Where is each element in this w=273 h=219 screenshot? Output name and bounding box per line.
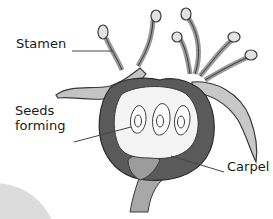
seeds-forming-label: Seeds forming bbox=[15, 103, 65, 133]
anthers bbox=[98, 8, 257, 60]
stamens bbox=[106, 16, 249, 80]
carpel-label: Carpel bbox=[227, 159, 269, 174]
flower-diagram: Stamen Seeds forming Carpel bbox=[0, 0, 273, 219]
seeds bbox=[130, 104, 190, 135]
flower-stalk bbox=[130, 176, 162, 212]
seeds-label-line2: forming bbox=[15, 118, 65, 133]
stamen-label: Stamen bbox=[16, 36, 66, 51]
corner-circle bbox=[0, 183, 57, 219]
seeds-label-line1: Seeds bbox=[15, 103, 65, 118]
